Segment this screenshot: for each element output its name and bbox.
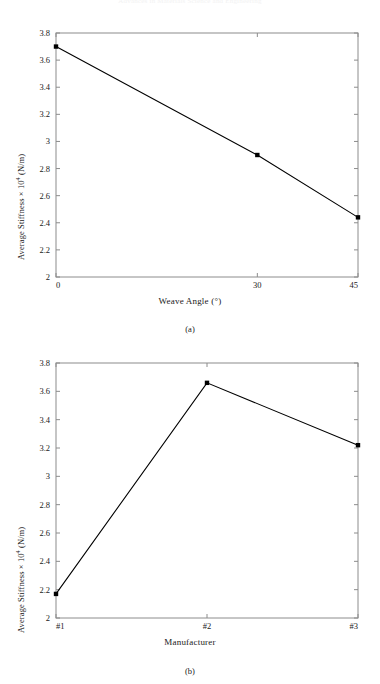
- y-tick-label: 3.2: [39, 443, 50, 453]
- x-tick-label: 45: [350, 280, 359, 290]
- figure-b: 22.22.42.62.833.23.43.63.8#1#2#3 Average…: [0, 340, 380, 684]
- y-axis-label-a-units: (N/m): [16, 154, 26, 178]
- y-tick-label: 2.6: [39, 528, 50, 538]
- y-axis-label-a: Average Stiffness × 104 (N/m): [15, 154, 26, 260]
- data-series-line: [56, 383, 358, 594]
- data-point-marker: [205, 381, 209, 385]
- y-tick-label: 3: [46, 471, 50, 481]
- chart-b: 22.22.42.62.833.23.43.63.8#1#2#3: [0, 340, 380, 640]
- y-axis-label-b-exponent: 4: [15, 550, 21, 553]
- y-axis-label-a-exponent: 4: [15, 177, 21, 180]
- figure-caption-a: (a): [0, 324, 380, 334]
- figure-caption-b: (b): [0, 666, 380, 676]
- y-tick-label: 3.8: [39, 28, 50, 38]
- y-tick-label: 3.4: [39, 82, 50, 92]
- figure-page: Advances in Materials Science and Engine…: [0, 0, 380, 684]
- x-tick-label: 30: [253, 280, 262, 290]
- chart-a: 22.22.42.62.833.23.43.63.803045: [0, 8, 380, 308]
- y-tick-label: 2.4: [39, 556, 50, 566]
- y-tick-label: 3.6: [39, 386, 50, 396]
- y-tick-label: 3.8: [39, 358, 50, 368]
- y-tick-label: 2.8: [39, 164, 50, 174]
- plot-area-b: 22.22.42.62.833.23.43.63.8#1#2#3: [0, 340, 380, 684]
- data-point-marker: [255, 153, 259, 157]
- figure-a: 22.22.42.62.833.23.43.63.803045 Average …: [0, 8, 380, 338]
- x-axis-label-a: Weave Angle (°): [0, 296, 380, 306]
- data-series-line: [56, 47, 358, 218]
- plot-frame: [56, 363, 358, 618]
- plot-area-a: 22.22.42.62.833.23.43.63.803045: [0, 8, 380, 338]
- y-axis-label-a-text: Average Stiffness × 10: [16, 180, 26, 260]
- x-tick-label: 0: [56, 280, 60, 290]
- data-point-marker: [54, 44, 58, 48]
- y-tick-label: 2: [46, 272, 50, 282]
- y-tick-label: 2.4: [39, 218, 50, 228]
- y-tick-label: 2.8: [39, 500, 50, 510]
- x-tick-label: #3: [350, 621, 359, 631]
- y-axis-label-b: Average Stiffness × 104 (N/m): [15, 527, 26, 633]
- plot-frame: [56, 33, 358, 277]
- y-axis-label-b-units: (N/m): [16, 527, 26, 551]
- y-tick-label: 2: [46, 613, 50, 623]
- x-axis-label-b: Manufacturer: [0, 637, 380, 647]
- y-axis-label-b-text: Average Stiffness × 10: [16, 553, 26, 633]
- y-tick-label: 2.2: [39, 585, 50, 595]
- y-tick-label: 3.2: [39, 109, 50, 119]
- y-tick-label: 3.6: [39, 55, 50, 65]
- y-tick-label: 3.4: [39, 415, 50, 425]
- y-tick-label: 2.2: [39, 245, 50, 255]
- x-tick-label: #2: [203, 621, 212, 631]
- data-point-marker: [54, 592, 58, 596]
- y-tick-label: 3: [46, 136, 50, 146]
- y-tick-label: 2.6: [39, 191, 50, 201]
- data-point-marker: [356, 443, 360, 447]
- running-head: Advances in Materials Science and Engine…: [0, 0, 380, 5]
- data-point-marker: [356, 215, 360, 219]
- x-tick-label: #1: [56, 621, 65, 631]
